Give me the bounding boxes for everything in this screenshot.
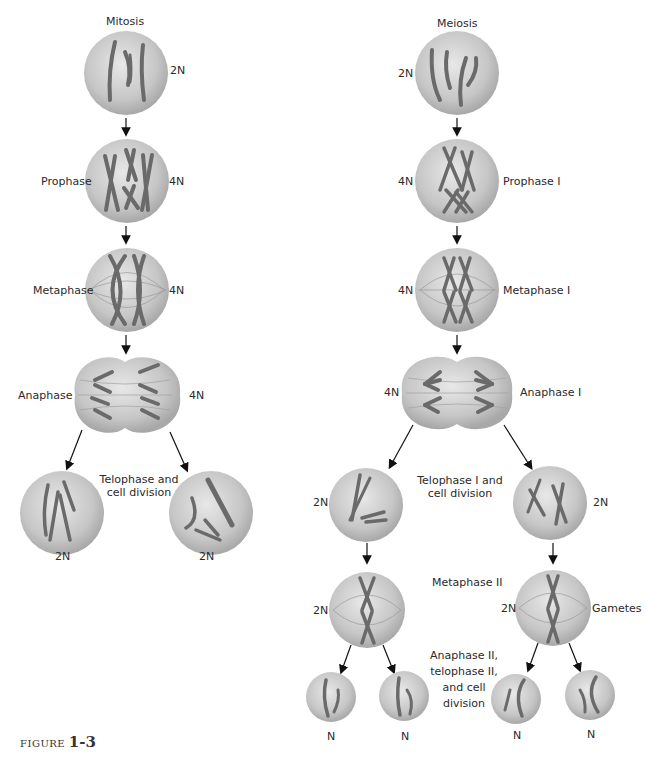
- mitosis-daughter-cell-left: [20, 471, 104, 555]
- ploidy-label: 2N: [501, 602, 516, 615]
- cell-division-diagram: [0, 0, 646, 761]
- meiosis-metaphase2-left-cell: [329, 572, 405, 648]
- meiosis-anaphase1-cell: [402, 357, 513, 429]
- ploidy-label: N: [401, 730, 409, 743]
- arrow-icon: [504, 425, 530, 466]
- ploidy-label: 2N: [55, 550, 70, 563]
- mitosis-title: Mitosis: [106, 15, 144, 28]
- meiosis-telophase1-left-cell: [329, 468, 403, 542]
- gametes-label: Gametes: [592, 602, 642, 615]
- arrow-icon: [529, 643, 538, 668]
- ploidy-label: N: [327, 730, 335, 743]
- ploidy-label: 2N: [398, 67, 413, 80]
- stage-label: Metaphase: [33, 284, 94, 297]
- meiosis-metaphase1-cell: [415, 248, 499, 332]
- stage-label: Prophase: [41, 175, 92, 188]
- arrow-icon: [569, 643, 579, 668]
- meiosis-metaphase2-right-cell: [515, 570, 591, 646]
- arrow-icon: [342, 645, 351, 670]
- ploidy-label: 4N: [169, 175, 184, 188]
- ploidy-label: 2N: [593, 496, 608, 509]
- mitosis-metaphase-cell: [85, 248, 169, 332]
- telophase1-label: Telophase I and cell division: [410, 474, 510, 500]
- anaphase2-label: Anaphase II, telophase II, and cell divi…: [424, 648, 504, 712]
- gamete-cell-1: [306, 672, 356, 722]
- stage-label: Metaphase I: [503, 284, 570, 297]
- arrow-icon: [68, 430, 82, 466]
- ploidy-label: 2N: [313, 604, 328, 617]
- arrow-icon: [383, 645, 393, 670]
- mitosis-interphase-cell: [84, 31, 168, 115]
- ploidy-label: 4N: [398, 175, 413, 188]
- stage-label: Prophase I: [503, 175, 560, 188]
- metaphase2-label: Metaphase II: [432, 576, 503, 589]
- mitosis-anaphase-cell: [75, 357, 181, 433]
- stage-label: Anaphase: [18, 389, 72, 402]
- meiosis-prophase1-cell: [415, 139, 499, 223]
- ploidy-label: 4N: [384, 386, 399, 399]
- stage-label: Anaphase I: [520, 386, 581, 399]
- ploidy-label: 2N: [170, 64, 185, 77]
- ploidy-label: N: [513, 729, 521, 742]
- arrow-icon: [170, 432, 186, 468]
- telophase-label: Telophase and cell division: [94, 473, 184, 499]
- gamete-cell-2: [379, 671, 429, 721]
- ploidy-label: 2N: [199, 550, 214, 563]
- meiosis-telophase1-right-cell: [513, 466, 587, 540]
- ploidy-label: N: [587, 728, 595, 741]
- mitosis-prophase-cell: [85, 139, 169, 223]
- arrow-icon: [391, 425, 413, 465]
- ploidy-label: 2N: [313, 496, 328, 509]
- ploidy-label: 4N: [189, 389, 204, 402]
- gamete-cell-4: [565, 670, 615, 720]
- meiosis-interphase-cell: [415, 31, 499, 115]
- figure-caption: FIGURE 1-3: [20, 733, 96, 751]
- ploidy-label: 4N: [398, 284, 413, 297]
- ploidy-label: 4N: [169, 284, 184, 297]
- meiosis-title: Meiosis: [437, 17, 478, 30]
